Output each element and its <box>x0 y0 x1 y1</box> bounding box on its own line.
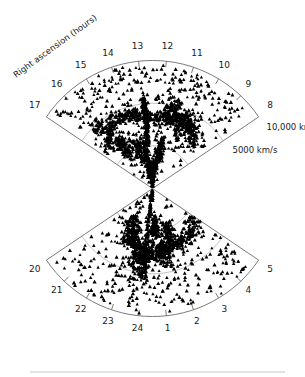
velocity-tick-label: 10,000 km/s <box>266 122 305 132</box>
ra-tick-label: 12 <box>162 41 173 51</box>
ra-tick-label: 10 <box>219 60 231 70</box>
ra-tick-label: 16 <box>51 79 63 89</box>
ra-tick-label: 23 <box>102 316 113 326</box>
ra-tick-label: 22 <box>75 304 86 314</box>
ra-tick-label: 4 <box>245 285 251 295</box>
velocity-tick-label: 5000 km/s <box>233 145 278 155</box>
ra-tick-label: 3 <box>221 304 227 314</box>
ra-tick-label: 17 <box>29 100 40 110</box>
ra-tick-label: 13 <box>132 41 143 51</box>
ra-tick-label: 15 <box>75 60 86 70</box>
redshift-survey-figure: 171615141312111098 202122232412345 10,00… <box>0 0 305 377</box>
ra-tick-label: 2 <box>194 316 200 326</box>
ra-tick-label: 1 <box>165 323 171 333</box>
ra-tick-label: 11 <box>191 48 202 58</box>
ra-tick-label: 21 <box>51 285 62 295</box>
ra-tick-label: 14 <box>102 48 114 58</box>
ra-tick-label: 8 <box>267 100 273 110</box>
ra-tick-label: 24 <box>132 323 144 333</box>
ra-tick-label: 20 <box>29 264 41 274</box>
wedge-scatter-plot: 171615141312111098 202122232412345 10,00… <box>0 0 305 377</box>
ra-tick-label: 5 <box>267 264 273 274</box>
ra-tick-label: 9 <box>245 79 251 89</box>
